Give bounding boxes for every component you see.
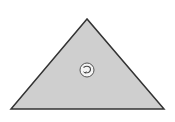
triangle-diagram: [0, 0, 175, 122]
rotate-arrow-icon: [80, 63, 94, 77]
